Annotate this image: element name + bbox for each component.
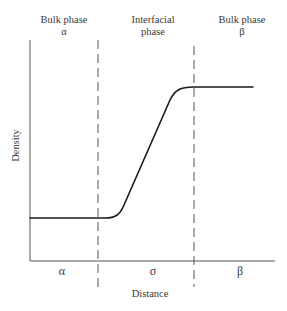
header-bulk-phase-beta-line1: Bulk phase [202, 14, 282, 26]
density-curve [30, 87, 253, 218]
header-bulk-phase-beta: Bulk phase β [202, 14, 282, 38]
header-bulk-phase-beta-line2: β [202, 26, 282, 38]
y-axis-label: Density [10, 123, 21, 169]
header-bulk-phase-alpha-line2: α [24, 26, 104, 38]
region-label-beta: β [225, 265, 255, 277]
header-bulk-phase-alpha: Bulk phase α [24, 14, 104, 38]
x-axis-label: Distance [120, 288, 180, 300]
header-interfacial-phase: Interfacial phase [113, 14, 193, 38]
header-bulk-phase-alpha-line1: Bulk phase [24, 14, 104, 26]
header-interfacial-phase-line2: phase [113, 26, 193, 38]
region-label-alpha: α [47, 265, 77, 277]
header-interfacial-phase-line1: Interfacial [113, 14, 193, 26]
region-label-sigma: σ [138, 265, 168, 277]
